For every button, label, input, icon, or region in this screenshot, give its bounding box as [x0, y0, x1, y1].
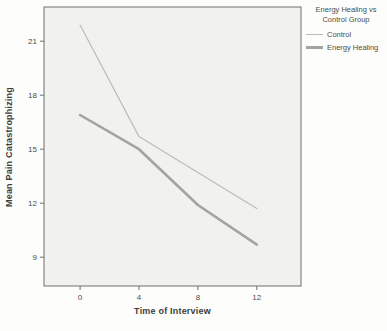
legend-item-control: Control	[306, 30, 386, 39]
control-line-swatch	[306, 34, 323, 35]
svg-text:8: 8	[196, 293, 201, 302]
legend-title: Energy Healing vs Control Group	[306, 5, 386, 25]
svg-text:9: 9	[33, 253, 38, 262]
svg-text:12: 12	[252, 293, 261, 302]
legend-label-control: Control	[327, 30, 351, 39]
y-axis-ticks: 912151821	[28, 37, 44, 262]
x-axis-ticks: 04812	[78, 286, 262, 302]
svg-text:4: 4	[137, 293, 142, 302]
legend-item-energy-healing: Energy Healing	[306, 43, 386, 52]
legend: Energy Healing vs Control Group Control …	[306, 5, 386, 52]
svg-text:0: 0	[78, 293, 83, 302]
energy-healing-line-swatch	[306, 46, 323, 49]
pain-catastrophizing-chart: 912151821 04812 Time of Interview Mean P…	[0, 0, 387, 331]
svg-text:21: 21	[28, 37, 37, 46]
plot-area	[44, 7, 301, 286]
svg-text:18: 18	[28, 91, 37, 100]
x-axis-title: Time of Interview	[44, 306, 301, 316]
legend-label-energy-healing: Energy Healing	[327, 43, 378, 52]
y-axis-title: Mean Pain Catastrophizing	[4, 87, 14, 207]
svg-text:15: 15	[28, 145, 37, 154]
svg-text:12: 12	[28, 199, 37, 208]
